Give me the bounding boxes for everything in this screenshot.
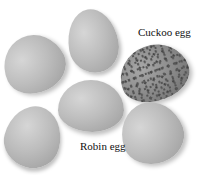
robin-egg-upper-left xyxy=(0,25,74,104)
robin-egg-lower-right xyxy=(112,93,191,172)
cuckoo-egg-label: Cuckoo egg xyxy=(138,26,191,38)
robin-egg-center xyxy=(58,80,124,132)
cuckoo-egg xyxy=(112,35,197,112)
robin-egg-top xyxy=(63,5,123,77)
robin-egg-label: Robin egg xyxy=(80,140,126,152)
